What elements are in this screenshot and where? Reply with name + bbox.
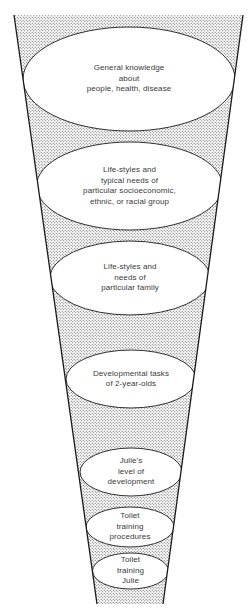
label-line: ethnic, or racial group: [90, 197, 169, 208]
label-line: Julie's: [120, 456, 143, 467]
label-general-knowledge: General knowledge about people, health, …: [29, 50, 229, 108]
label-line: level of: [118, 467, 144, 478]
label-group-lifestyles: Life-styles and typical needs of particu…: [39, 157, 220, 215]
label-line: General knowledge: [94, 63, 165, 74]
label-line: training: [117, 566, 144, 577]
label-line: Julie: [122, 576, 139, 587]
label-julies-development: Julie's level of development: [84, 452, 178, 492]
label-line: particular family: [101, 283, 159, 294]
label-toilet-procedures: Toilet training procedures: [90, 510, 170, 544]
label-line: typical needs of: [101, 176, 158, 187]
label-line: Life-styles and: [103, 262, 156, 273]
label-line: training: [116, 522, 143, 533]
label-family-lifestyles: Life-styles and needs of particular fami…: [55, 253, 205, 303]
label-line: of 2-year-olds: [106, 379, 156, 390]
label-line: people, health, disease: [87, 84, 172, 95]
label-line: Toilet: [121, 555, 140, 566]
label-line: particular socioeconomic,: [83, 186, 176, 197]
label-line: development: [108, 477, 155, 488]
label-line: about: [119, 74, 140, 85]
label-line: Developmental tasks: [93, 369, 169, 380]
label-developmental-tasks: Developmental tasks of 2-year-olds: [70, 362, 192, 396]
label-line: procedures: [109, 532, 150, 543]
label-toilet-training-julie: Toilet training Julie: [95, 555, 166, 587]
label-line: needs of: [114, 273, 146, 284]
label-line: Life-styles and: [103, 165, 156, 176]
label-line: Toilet: [120, 511, 139, 522]
